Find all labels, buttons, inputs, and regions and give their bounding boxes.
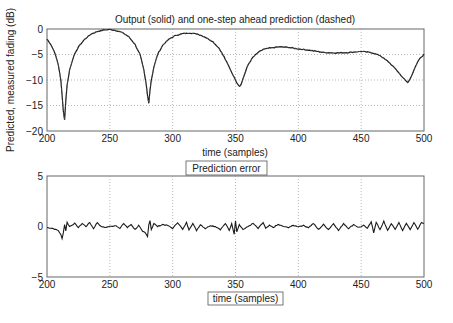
x-tick-label: 350 xyxy=(227,279,244,290)
x-tick-label: 400 xyxy=(290,133,307,144)
x-tick-label: 450 xyxy=(353,279,370,290)
x-tick-label: 250 xyxy=(101,133,118,144)
x-tick-label: 500 xyxy=(416,279,433,290)
bottom-plot: 20025030035040045050050−5 Prediction err… xyxy=(32,161,433,305)
figure: 2002503003504004505000−5−10−15−20 Output… xyxy=(0,0,453,323)
y-tick-label: 0 xyxy=(37,24,43,35)
top-plot-xlabel: time (samples) xyxy=(202,147,268,158)
x-tick-label: 250 xyxy=(101,279,118,290)
bottom-plot-title: Prediction error xyxy=(192,163,261,174)
y-tick-label: 5 xyxy=(37,171,43,182)
x-tick-label: 500 xyxy=(416,133,433,144)
x-tick-label: 450 xyxy=(353,133,370,144)
top-plot-ylabel: Predicted, measured fading (dB) xyxy=(5,8,16,152)
top-plot: 2002503003504004505000−5−10−15−20 Output… xyxy=(5,8,433,158)
y-tick-label: −5 xyxy=(32,49,44,60)
x-tick-label: 300 xyxy=(164,279,181,290)
bottom-plot-xlabel: time (samples) xyxy=(213,293,279,304)
y-tick-label: −15 xyxy=(26,100,43,111)
y-tick-label: −20 xyxy=(26,126,43,137)
y-tick-label: −5 xyxy=(32,272,44,283)
x-tick-label: 300 xyxy=(164,133,181,144)
top-plot-title: Output (solid) and one-step ahead predic… xyxy=(115,14,355,25)
x-tick-label: 400 xyxy=(290,279,307,290)
y-tick-label: −10 xyxy=(26,75,43,86)
x-tick-label: 350 xyxy=(227,133,244,144)
y-tick-label: 0 xyxy=(37,221,43,232)
